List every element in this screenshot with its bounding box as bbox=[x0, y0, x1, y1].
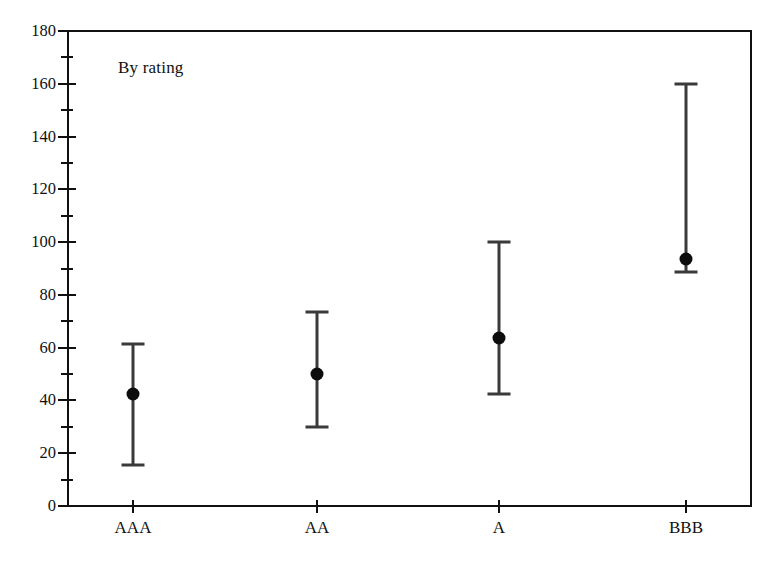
x-axis-tick bbox=[685, 500, 687, 513]
y-axis-tick-major bbox=[58, 30, 76, 32]
low-cap-marker bbox=[122, 464, 145, 467]
y-axis-tick-minor bbox=[61, 162, 73, 164]
y-axis-tick-label: 100 bbox=[4, 234, 56, 251]
x-axis-tick bbox=[132, 500, 134, 513]
rating-range-chart: By rating 020406080100120140160180 AAAAA… bbox=[0, 0, 775, 565]
y-axis-tick-major bbox=[58, 452, 76, 454]
plot-area-frame bbox=[67, 30, 752, 507]
y-axis-tick-minor bbox=[61, 56, 73, 58]
range-line bbox=[685, 84, 688, 273]
y-axis-tick-minor bbox=[61, 109, 73, 111]
x-axis-tick-label-aa: AA bbox=[305, 519, 330, 536]
y-axis-tick-label: 80 bbox=[4, 287, 56, 304]
x-axis-tick-label-a: A bbox=[493, 519, 505, 536]
y-axis-tick-minor bbox=[61, 268, 73, 270]
y-axis-tick-label: 180 bbox=[4, 23, 56, 40]
mean-point-marker bbox=[680, 253, 693, 266]
y-axis-tick-major bbox=[58, 136, 76, 138]
y-axis-tick-major bbox=[58, 505, 76, 507]
y-axis-tick-minor bbox=[61, 426, 73, 428]
y-axis-tick-major bbox=[58, 399, 76, 401]
low-cap-marker bbox=[675, 271, 698, 274]
low-cap-marker bbox=[306, 425, 329, 428]
range-line bbox=[498, 242, 501, 394]
y-axis-tick-major bbox=[58, 294, 76, 296]
y-axis-tick-label: 20 bbox=[4, 445, 56, 462]
x-axis-tick bbox=[316, 500, 318, 513]
y-axis-tick-minor bbox=[61, 320, 73, 322]
y-axis-tick-minor bbox=[61, 479, 73, 481]
y-axis-tick-label: 60 bbox=[4, 340, 56, 357]
high-cap-marker bbox=[675, 82, 698, 85]
mean-point-marker bbox=[493, 332, 506, 345]
y-axis-tick-label: 140 bbox=[4, 129, 56, 146]
y-axis-tick-major bbox=[58, 241, 76, 243]
y-axis-tick-minor bbox=[61, 215, 73, 217]
y-axis-tick-label: 40 bbox=[4, 392, 56, 409]
y-axis-tick-major bbox=[58, 188, 76, 190]
y-axis-tick-major bbox=[58, 347, 76, 349]
y-axis-tick-label: 120 bbox=[4, 181, 56, 198]
high-cap-marker bbox=[306, 311, 329, 314]
y-axis-tick-major bbox=[58, 83, 76, 85]
mean-point-marker bbox=[127, 387, 140, 400]
y-axis-tick-minor bbox=[61, 373, 73, 375]
mean-point-marker bbox=[311, 368, 324, 381]
high-cap-marker bbox=[488, 241, 511, 244]
x-axis-tick-label-bbb: BBB bbox=[669, 519, 703, 536]
low-cap-marker bbox=[488, 392, 511, 395]
plot-annotation-label: By rating bbox=[118, 58, 184, 78]
high-cap-marker bbox=[122, 342, 145, 345]
range-line bbox=[132, 344, 135, 465]
y-axis-tick-label: 160 bbox=[4, 76, 56, 93]
y-axis-tick-label: 0 bbox=[4, 498, 56, 515]
x-axis-tick bbox=[498, 500, 500, 513]
x-axis-tick-label-aaa: AAA bbox=[115, 519, 152, 536]
